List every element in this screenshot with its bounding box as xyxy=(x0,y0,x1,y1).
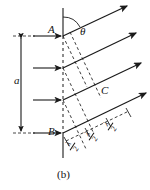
diffraction-figure: A B C θ a λ 2 λ 2 λ 2 (b) xyxy=(0,0,150,190)
label-point-c: C xyxy=(101,85,108,96)
label-slit-bottom: B xyxy=(48,126,55,137)
label-slit-width: a xyxy=(14,75,20,86)
figure-canvas xyxy=(0,0,150,190)
diffracted-rays xyxy=(63,6,146,133)
label-angle-theta: θ xyxy=(80,26,85,37)
incident-rays xyxy=(33,36,61,133)
label-slit-top: A xyxy=(48,24,55,35)
figure-caption: (b) xyxy=(57,168,70,180)
angle-arc xyxy=(63,17,80,27)
